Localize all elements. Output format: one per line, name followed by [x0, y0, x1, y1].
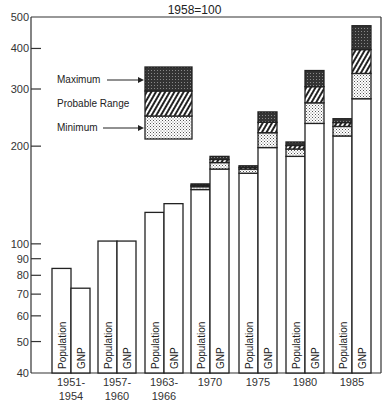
probable-segment — [352, 50, 371, 74]
x-category-label: 1975 — [246, 376, 270, 388]
minimum-segment — [352, 73, 371, 98]
gnp-bar: GNP — [352, 26, 371, 373]
bar-label: GNP — [169, 347, 180, 369]
y-tick-label: 90 — [17, 253, 29, 265]
minimum-segment — [333, 126, 352, 136]
x-category-label: 1957- — [103, 376, 131, 388]
bar-chart: 405060708090100200300400500 PopulationGN… — [0, 0, 389, 402]
legend-maximum-swatch — [145, 67, 192, 91]
bar-label: Population — [338, 322, 349, 369]
x-category-label: 1954 — [59, 390, 83, 402]
y-axis: 405060708090100200300400500 — [11, 11, 41, 379]
bar-label: GNP — [357, 347, 368, 369]
probable-segment — [305, 87, 324, 103]
maximum-segment — [191, 184, 210, 185]
y-tick-label: 50 — [17, 336, 29, 348]
legend-maximum-label: Maximum — [57, 74, 100, 85]
x-category-label: 1951- — [57, 376, 85, 388]
bar-label: GNP — [122, 347, 133, 369]
bar-label: Population — [244, 322, 255, 369]
maximum-segment — [210, 156, 229, 159]
gnp-bar: GNP — [164, 204, 183, 373]
x-category-label: 1966 — [152, 390, 176, 402]
gnp-bar: GNP — [210, 156, 229, 373]
bar-label: GNP — [263, 347, 274, 369]
maximum-segment — [333, 119, 352, 123]
bar-label: GNP — [215, 347, 226, 369]
y-tick-label: 300 — [11, 83, 29, 95]
bar-label: GNP — [310, 347, 321, 369]
x-category-label: 1963- — [150, 376, 178, 388]
minimum-segment — [258, 133, 277, 148]
arrow-icon — [138, 77, 144, 83]
gnp-bar: GNP — [258, 112, 277, 373]
maximum-segment — [258, 112, 277, 122]
bar-label: Population — [103, 322, 114, 369]
population-bar: Population — [286, 142, 305, 373]
legend: MaximumProbable RangeMinimum — [57, 67, 192, 139]
y-tick-label: 200 — [11, 140, 29, 152]
x-category-label: 1985 — [340, 376, 364, 388]
y-tick-label: 70 — [17, 288, 29, 300]
y-tick-label: 80 — [17, 269, 29, 281]
minimum-segment — [305, 103, 324, 124]
minimum-segment — [286, 149, 305, 156]
gnp-bar: GNP — [71, 288, 90, 373]
y-tick-label: 40 — [17, 367, 29, 379]
bar-label: Population — [291, 322, 302, 369]
population-bar: Population — [145, 212, 164, 373]
population-bar: Population — [239, 166, 258, 373]
population-bar: Population — [333, 119, 352, 373]
population-bar: Population — [98, 241, 117, 373]
maximum-segment — [239, 166, 258, 168]
y-tick-label: 60 — [17, 310, 29, 322]
x-category-label: 1970 — [198, 376, 222, 388]
population-bar: Population — [52, 268, 71, 373]
bar-label: Population — [150, 322, 161, 369]
bar-label: Population — [196, 322, 207, 369]
x-axis-labels: 1951-19541957-19601963-19661970197519801… — [57, 376, 364, 402]
legend-minimum-label: Minimum — [57, 122, 98, 133]
x-category-label: 1960 — [105, 390, 129, 402]
maximum-segment — [286, 142, 305, 146]
arrow-icon — [138, 125, 144, 131]
legend-probable-label: Probable Range — [57, 98, 130, 109]
y-tick-label: 500 — [11, 11, 29, 23]
y-tick-label: 400 — [11, 42, 29, 54]
probable-segment — [258, 122, 277, 132]
maximum-segment — [305, 71, 324, 87]
legend-minimum-swatch — [145, 116, 192, 139]
gnp-bar: GNP — [305, 71, 324, 373]
legend-probable-swatch — [145, 91, 192, 116]
bar-label: GNP — [76, 347, 87, 369]
maximum-segment — [352, 26, 371, 50]
population-bar: Population — [191, 184, 210, 373]
bar-label: Population — [57, 322, 68, 369]
y-tick-label: 100 — [11, 238, 29, 250]
gnp-bar: GNP — [117, 241, 136, 373]
minimum-segment — [210, 163, 229, 169]
x-category-label: 1980 — [293, 376, 317, 388]
